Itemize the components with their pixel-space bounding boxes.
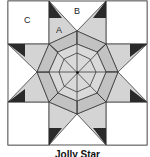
label-c: C bbox=[24, 15, 31, 25]
center-dot bbox=[76, 71, 79, 74]
label-a: A bbox=[56, 25, 62, 35]
quilt-block-diagram bbox=[0, 0, 150, 150]
diagram-caption: Jolly Star bbox=[0, 149, 150, 157]
label-b: B bbox=[74, 6, 80, 16]
